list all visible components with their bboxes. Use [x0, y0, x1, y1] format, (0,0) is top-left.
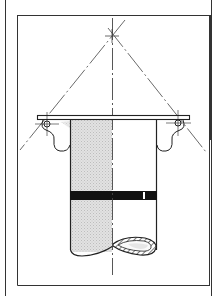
- black-band: [70, 191, 157, 200]
- shaded-half: [70, 120, 112, 252]
- flange-plate: [38, 116, 190, 120]
- technical-drawing: [0, 0, 221, 296]
- cylinder-body: [60, 120, 157, 256]
